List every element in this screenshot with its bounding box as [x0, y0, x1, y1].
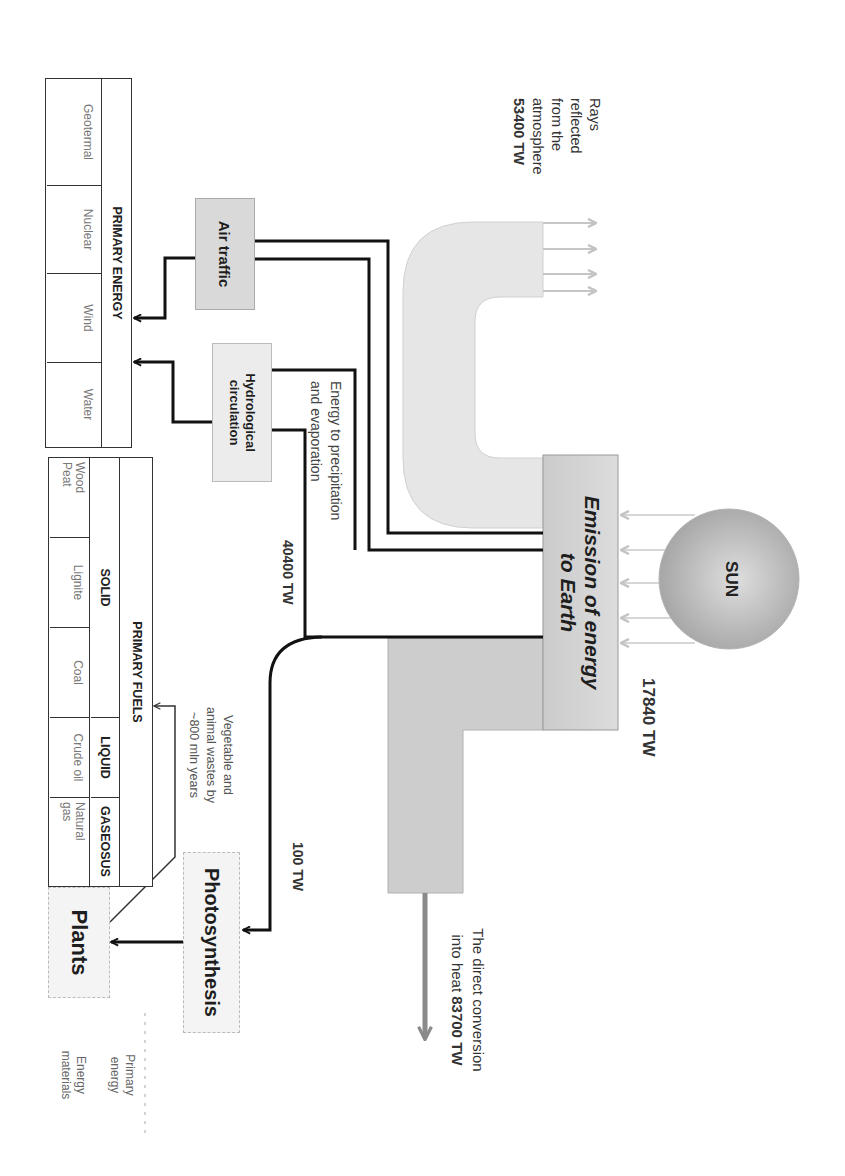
- legend-energy-materials: Energy materials: [58, 1025, 88, 1125]
- fuel-category-row: SOLID LIQUID GASEOSUS: [89, 458, 119, 886]
- primary-energy-table: PRIMARY ENERGY Geotermal Nuclear Wind Wa…: [45, 78, 132, 448]
- photosynthesis-label: Photosynthesis: [200, 868, 223, 1017]
- legend-line: Energy: [73, 1025, 88, 1125]
- category-liquid: LIQUID: [91, 718, 119, 798]
- cell-line: Wood: [73, 462, 86, 537]
- primary-fuels-title: PRIMARY FUELS: [119, 458, 152, 886]
- heat-line1: The direct conversion: [468, 900, 489, 1100]
- table-cell-lignite: Lignite: [50, 538, 89, 628]
- reflected-label: Rays reflected from the atmosphere 53400…: [509, 98, 604, 175]
- reflected-line: reflected: [566, 98, 585, 175]
- reflected-value: 53400 TW: [509, 98, 528, 175]
- energy-flow-diagram: SUN 17840 TW Emission of energy to Earth…: [0, 0, 845, 1176]
- table-cell-nuclear: Nuclear: [47, 186, 101, 274]
- primary-energy-title: PRIMARY ENERGY: [101, 79, 131, 447]
- precipitation-line1: Energy to precipitation: [326, 381, 346, 520]
- direct-heat-band: [388, 638, 543, 893]
- heat-value: 83700 TW: [449, 996, 466, 1065]
- hydro-line1: Hydrological: [242, 373, 258, 452]
- legend-primary-energy: Primary energy: [107, 1025, 137, 1125]
- photosynthesis-line: [243, 637, 322, 930]
- primary-fuels-table: PRIMARY FUELS SOLID LIQUID GASEOSUS Wood…: [48, 457, 153, 887]
- table-cell-natural-gas: Natural gas: [50, 798, 89, 885]
- plants-box: Plants: [48, 887, 110, 998]
- reflected-line: from the: [547, 98, 566, 175]
- note-line: Vegetable and: [219, 685, 236, 825]
- emission-line2: to Earth: [557, 553, 581, 632]
- hydrological-circulation-box: Hydrological circulation: [212, 343, 272, 482]
- reflected-energy-band: [403, 222, 543, 528]
- flow-lines: [111, 241, 543, 942]
- heat-label: The direct conversion into heat 83700 TW: [447, 900, 489, 1100]
- legend-line: Primary: [122, 1025, 137, 1125]
- legend-line: energy: [107, 1025, 122, 1125]
- fossil-formation-note: Vegetable and animal wastes by ~800 mln …: [185, 685, 236, 825]
- precipitation-line2: and evaporation: [306, 381, 326, 520]
- reflected-line: atmosphere: [528, 98, 547, 175]
- hydro-to-primary-energy: [134, 362, 212, 422]
- air-traffic-label: Air traffic: [217, 221, 234, 288]
- sun-label: SUN: [721, 509, 741, 649]
- photosynthesis-value: 100 TW: [288, 842, 307, 891]
- emission-line1: Emission of energy: [581, 496, 605, 690]
- table-cell-geotermal: Geotermal: [47, 79, 101, 186]
- cell-line: gas: [60, 802, 73, 885]
- category-gaseous: GASEOSUS: [91, 798, 119, 885]
- note-line: animal wastes by: [202, 685, 219, 825]
- legend-line: materials: [58, 1025, 73, 1125]
- table-cell-wood-peat: Wood Peat: [50, 458, 89, 538]
- fuel-cells: Wood Peat Lignite Coal Crude oil Natural…: [50, 458, 89, 885]
- reflected-line: Rays: [585, 98, 604, 175]
- table-cell-water: Water: [47, 363, 101, 446]
- table-cell-coal: Coal: [50, 628, 89, 718]
- cell-line: Natural: [73, 802, 86, 885]
- category-solid: SOLID: [91, 458, 119, 718]
- table-cell-crude-oil: Crude oil: [50, 718, 89, 798]
- sun-output-value: 17840 TW: [639, 678, 658, 756]
- primary-energy-cells: Geotermal Nuclear Wind Water: [47, 79, 101, 446]
- reflected-ray-arrows: [543, 223, 596, 291]
- emission-box: Emission of energy to Earth: [543, 455, 618, 730]
- cell-line: Peat: [60, 462, 73, 537]
- note-line: ~800 mln years: [185, 685, 202, 825]
- air-traffic-box: Air traffic: [195, 198, 255, 310]
- hydro-line2: circulation: [226, 380, 242, 446]
- photosynthesis-box: Photosynthesis: [183, 852, 240, 1033]
- plants-label: Plants: [66, 909, 92, 975]
- heat-line2-prefix: into heat: [449, 935, 466, 993]
- table-cell-wind: Wind: [47, 274, 101, 363]
- precipitation-value: 40400 TW: [278, 540, 297, 605]
- air-traffic-to-primary-energy: [134, 258, 195, 318]
- precipitation-label: Energy to precipitation and evaporation: [306, 381, 346, 520]
